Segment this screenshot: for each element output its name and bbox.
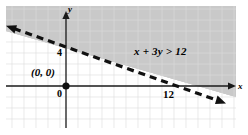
inequality-label: x + 3y > 12	[134, 46, 187, 57]
inequality-graph-figure: x + 3y > 12 x y 4 12 0 (0, 0)	[0, 0, 248, 135]
test-point-marker	[62, 82, 69, 89]
test-point-label: (0, 0)	[31, 67, 55, 78]
x-intercept-tick-label: 12	[163, 89, 174, 100]
x-axis-label: x	[238, 82, 243, 91]
shaded-region	[6, 6, 236, 97]
y-axis-label: y	[68, 5, 72, 14]
origin-tick-label: 0	[57, 89, 62, 99]
y-intercept-tick-label: 4	[57, 48, 62, 58]
